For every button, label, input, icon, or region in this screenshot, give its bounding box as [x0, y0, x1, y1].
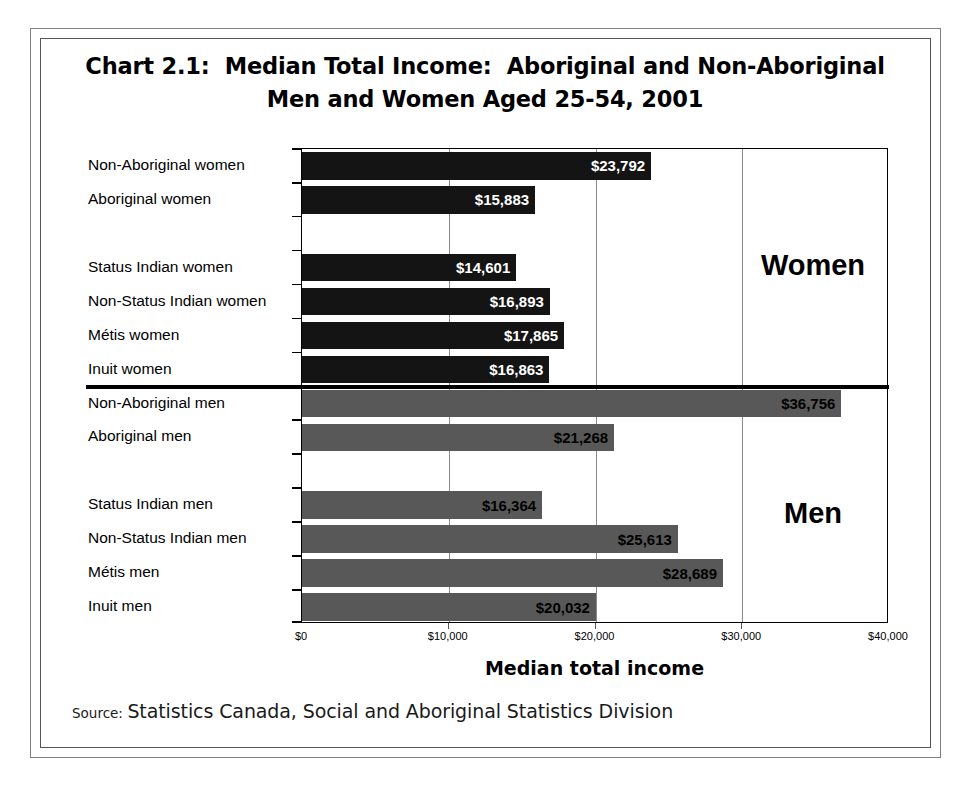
- bar-value-label: $23,792: [591, 157, 651, 174]
- category-label: Non-Status Indian men: [88, 521, 247, 555]
- x-axis-tick: [595, 623, 596, 629]
- category-label: Métis men: [88, 555, 160, 589]
- bar-value-label: $21,268: [554, 429, 614, 446]
- bar: $36,756: [302, 390, 841, 418]
- chart-title: Chart 2.1: Median Total Income: Aborigin…: [55, 50, 915, 116]
- bar: $28,689: [302, 559, 723, 587]
- y-axis-tick: [292, 589, 301, 591]
- y-axis-tick: [292, 419, 301, 421]
- y-axis-tick: [292, 453, 301, 455]
- category-label: Non-Aboriginal men: [88, 386, 225, 420]
- chart-row: $20,032: [302, 590, 887, 624]
- category-label: Status Indian men: [88, 487, 213, 521]
- bar-value-label: $14,601: [456, 259, 516, 276]
- category-label: Non-Status Indian women: [88, 284, 266, 318]
- x-axis-tick-labels: $0$10,000$20,000$30,000$40,000: [301, 630, 888, 648]
- chart-row: [302, 454, 887, 488]
- section-label-women: Women: [738, 249, 888, 282]
- y-axis-tick: [292, 487, 301, 489]
- bar: $25,613: [302, 525, 678, 553]
- bar: $23,792: [302, 152, 651, 180]
- y-axis-tick: [292, 521, 301, 523]
- x-axis-tick-label: $20,000: [575, 630, 615, 642]
- chart-row: $28,689: [302, 556, 887, 590]
- bar-value-label: $28,689: [663, 565, 723, 582]
- category-label: Status Indian women: [88, 250, 233, 284]
- category-label: Aboriginal women: [88, 182, 211, 216]
- bar-value-label: $25,613: [618, 531, 678, 548]
- x-axis-tick-label: $40,000: [868, 630, 908, 642]
- y-axis-tick: [292, 182, 301, 184]
- x-axis-tick-label: $30,000: [721, 630, 761, 642]
- bar: $16,863: [302, 356, 549, 384]
- chart-row: $36,756: [302, 387, 887, 421]
- category-label: Métis women: [88, 318, 179, 352]
- bar-value-label: $16,893: [490, 293, 550, 310]
- chart-row: $21,268: [302, 420, 887, 454]
- bar-value-label: $36,756: [781, 395, 841, 412]
- bar-value-label: $15,883: [475, 191, 535, 208]
- source-text: Statistics Canada, Social and Aboriginal…: [127, 700, 673, 722]
- y-axis-tick: [292, 216, 301, 218]
- chart-title-line-1: Chart 2.1: Median Total Income: Aborigin…: [55, 50, 915, 83]
- x-axis-tick-label: $10,000: [428, 630, 468, 642]
- bar: $16,364: [302, 491, 542, 519]
- x-axis-tick: [448, 623, 449, 629]
- category-label: Aboriginal men: [88, 419, 191, 453]
- category-label: Inuit men: [88, 589, 152, 623]
- source-line: Source: Statistics Canada, Social and Ab…: [72, 700, 673, 722]
- y-axis-tick: [292, 148, 301, 150]
- bar-value-label: $20,032: [536, 599, 596, 616]
- source-label: Source:: [72, 705, 123, 721]
- bar: $20,032: [302, 593, 596, 621]
- chart-row: $16,893: [302, 285, 887, 319]
- chart-row: [302, 217, 887, 251]
- bar-value-label: $16,364: [482, 497, 542, 514]
- chart-row: $16,863: [302, 353, 887, 387]
- chart-title-line-2: Men and Women Aged 25-54, 2001: [55, 83, 915, 116]
- bar: $15,883: [302, 186, 535, 214]
- x-axis-tick: [741, 623, 742, 629]
- y-axis-tick: [292, 555, 301, 557]
- bar-value-label: $16,863: [489, 361, 549, 378]
- bar: $14,601: [302, 254, 516, 282]
- bar: $17,865: [302, 322, 564, 350]
- section-label-men: Men: [738, 497, 888, 530]
- y-axis-tick: [292, 318, 301, 320]
- category-label: Non-Aboriginal women: [88, 148, 245, 182]
- y-axis-tick: [292, 352, 301, 354]
- chart-row: $17,865: [302, 319, 887, 353]
- y-axis-tick: [292, 250, 301, 252]
- chart-row: $23,792: [302, 149, 887, 183]
- bar-value-label: $17,865: [504, 327, 564, 344]
- bar: $21,268: [302, 424, 614, 452]
- x-axis-tick-label: $0: [295, 630, 307, 642]
- chart-row: $15,883: [302, 183, 887, 217]
- bar: $16,893: [302, 288, 550, 316]
- x-axis-title: Median total income: [301, 657, 888, 679]
- section-divider: [86, 385, 889, 389]
- category-label: Inuit women: [88, 352, 172, 386]
- y-axis-tick: [292, 621, 301, 623]
- y-axis-tick: [292, 284, 301, 286]
